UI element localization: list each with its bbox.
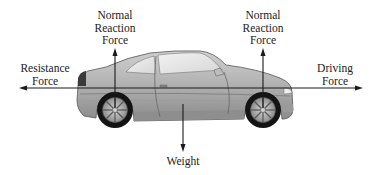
label-resistance-force: Resistance Force bbox=[10, 62, 80, 87]
label-normal-reaction-rear: Normal Reaction Force bbox=[85, 9, 145, 47]
label-line: Force bbox=[85, 34, 145, 47]
label-line: Force bbox=[305, 75, 365, 88]
label-normal-reaction-front: Normal Reaction Force bbox=[233, 9, 293, 47]
car-illustration bbox=[0, 0, 381, 175]
label-line: Driving bbox=[305, 62, 365, 75]
normal-rear-arrowhead-icon bbox=[113, 48, 118, 56]
label-line: Weight bbox=[153, 155, 213, 168]
normal-front-arrowhead-icon bbox=[261, 48, 266, 56]
weight-arrowhead-icon bbox=[181, 144, 186, 152]
label-line: Normal bbox=[233, 9, 293, 22]
force-diagram: Normal Reaction Force Normal Reaction Fo… bbox=[0, 0, 381, 175]
label-driving-force: Driving Force bbox=[305, 62, 365, 87]
label-line: Reaction bbox=[233, 22, 293, 35]
label-weight: Weight bbox=[153, 155, 213, 168]
label-line: Force bbox=[10, 75, 80, 88]
label-line: Resistance bbox=[10, 62, 80, 75]
label-line: Reaction bbox=[85, 22, 145, 35]
label-line: Force bbox=[233, 34, 293, 47]
label-line: Normal bbox=[85, 9, 145, 22]
